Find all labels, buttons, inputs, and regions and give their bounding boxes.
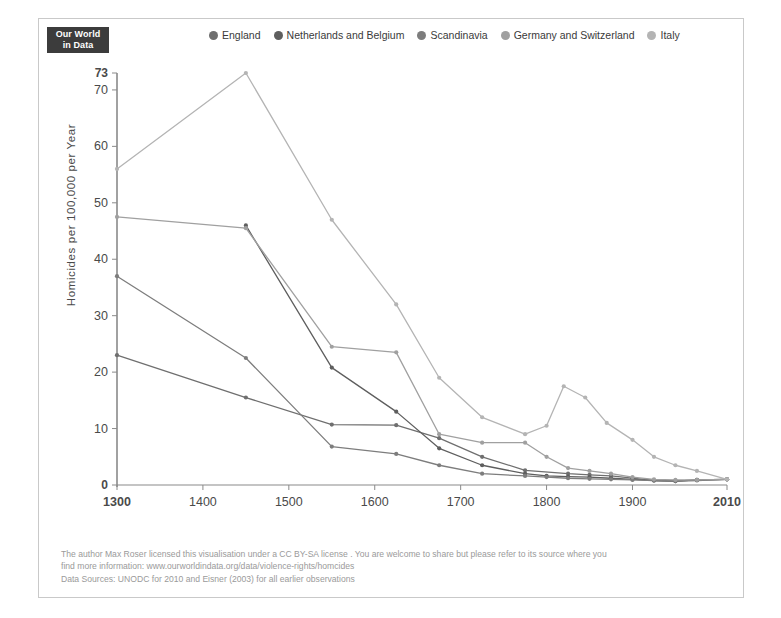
series-netherlands-and-belgium bbox=[244, 223, 729, 483]
legend-marker-icon bbox=[274, 31, 283, 40]
x-tick-label: 1500 bbox=[275, 495, 303, 509]
y-tick-label: 70 bbox=[94, 83, 108, 97]
logo-line-2: in Data bbox=[47, 40, 109, 51]
x-tick-label: 2010 bbox=[713, 495, 741, 509]
data-point-marker[interactable] bbox=[244, 395, 248, 399]
data-point-marker[interactable] bbox=[394, 423, 398, 427]
x-tick-label: 1300 bbox=[103, 495, 131, 509]
data-point-marker[interactable] bbox=[437, 376, 441, 380]
our-world-in-data-logo: Our World in Data bbox=[47, 27, 109, 53]
footer-line-1: The author Max Roser licensed this visua… bbox=[61, 548, 721, 561]
data-point-marker[interactable] bbox=[330, 445, 334, 449]
data-point-marker[interactable] bbox=[630, 475, 634, 479]
data-point-marker[interactable] bbox=[115, 274, 119, 278]
x-tick-label: 1400 bbox=[189, 495, 217, 509]
x-tick-label: 1900 bbox=[619, 495, 647, 509]
data-point-marker[interactable] bbox=[330, 345, 334, 349]
series-england bbox=[115, 353, 729, 483]
series-line bbox=[117, 73, 727, 479]
data-point-marker[interactable] bbox=[587, 477, 591, 481]
legend-item[interactable]: Netherlands and Belgium bbox=[274, 29, 405, 41]
data-point-marker[interactable] bbox=[480, 463, 484, 467]
chart-svg: 0102030405060707313001400150016001700180… bbox=[39, 59, 744, 529]
x-tick-label: 1600 bbox=[361, 495, 389, 509]
data-point-marker[interactable] bbox=[609, 472, 613, 476]
y-tick-label: 50 bbox=[94, 196, 108, 210]
data-point-marker[interactable] bbox=[630, 438, 634, 442]
data-point-marker[interactable] bbox=[244, 226, 248, 230]
plot-area: Homicides per 100,000 per Year 010203040… bbox=[39, 59, 744, 529]
legend-marker-icon bbox=[209, 31, 218, 40]
y-tick-label: 0 bbox=[101, 478, 108, 492]
data-point-marker[interactable] bbox=[652, 477, 656, 481]
data-point-marker[interactable] bbox=[566, 476, 570, 480]
y-tick-label: 30 bbox=[94, 309, 108, 323]
legend-marker-icon bbox=[501, 31, 510, 40]
data-point-marker[interactable] bbox=[115, 167, 119, 171]
legend-label: Germany and Switzerland bbox=[514, 29, 635, 41]
data-point-marker[interactable] bbox=[523, 474, 527, 478]
data-point-marker[interactable] bbox=[480, 455, 484, 459]
data-point-marker[interactable] bbox=[244, 356, 248, 360]
data-point-marker[interactable] bbox=[523, 441, 527, 445]
legend-label: England bbox=[222, 29, 261, 41]
footer-line-3: Data Sources: UNODC for 2010 and Eisner … bbox=[61, 573, 721, 586]
data-point-marker[interactable] bbox=[673, 463, 677, 467]
legend-label: Italy bbox=[660, 29, 679, 41]
x-tick-label: 1800 bbox=[533, 495, 561, 509]
data-point-marker[interactable] bbox=[652, 455, 656, 459]
data-point-marker[interactable] bbox=[566, 466, 570, 470]
data-point-marker[interactable] bbox=[437, 463, 441, 467]
data-point-marker[interactable] bbox=[544, 424, 548, 428]
data-point-marker[interactable] bbox=[725, 477, 729, 481]
data-point-marker[interactable] bbox=[330, 218, 334, 222]
data-point-marker[interactable] bbox=[583, 395, 587, 399]
data-point-marker[interactable] bbox=[437, 432, 441, 436]
y-axis-label: Homicides per 100,000 per Year bbox=[65, 85, 77, 345]
legend-item[interactable]: Germany and Switzerland bbox=[501, 29, 635, 41]
data-point-marker[interactable] bbox=[330, 423, 334, 427]
data-point-marker[interactable] bbox=[609, 477, 613, 481]
data-point-marker[interactable] bbox=[562, 384, 566, 388]
chart-figure: Our World in Data EnglandNetherlands and… bbox=[38, 18, 744, 598]
logo-line-1: Our World bbox=[47, 29, 109, 40]
y-tick-label: 20 bbox=[94, 365, 108, 379]
chart-legend: EnglandNetherlands and BelgiumScandinavi… bbox=[209, 29, 680, 41]
data-point-marker[interactable] bbox=[437, 436, 441, 440]
footer-line-2: find more information: www.ourworldindat… bbox=[61, 560, 721, 573]
data-point-marker[interactable] bbox=[330, 366, 334, 370]
legend-item[interactable]: Scandinavia bbox=[417, 29, 487, 41]
y-tick-label: 73 bbox=[95, 66, 109, 80]
data-point-marker[interactable] bbox=[394, 302, 398, 306]
data-point-marker[interactable] bbox=[544, 475, 548, 479]
data-point-marker[interactable] bbox=[673, 478, 677, 482]
data-point-marker[interactable] bbox=[480, 415, 484, 419]
legend-marker-icon bbox=[417, 31, 426, 40]
series-line bbox=[117, 355, 727, 481]
data-point-marker[interactable] bbox=[437, 446, 441, 450]
series-italy bbox=[115, 71, 729, 482]
legend-item[interactable]: England bbox=[209, 29, 261, 41]
y-tick-label: 40 bbox=[94, 252, 108, 266]
data-point-marker[interactable] bbox=[244, 71, 248, 75]
data-point-marker[interactable] bbox=[394, 452, 398, 456]
data-point-marker[interactable] bbox=[695, 478, 699, 482]
legend-label: Netherlands and Belgium bbox=[287, 29, 405, 41]
y-tick-label: 10 bbox=[94, 422, 108, 436]
y-tick-label: 60 bbox=[94, 139, 108, 153]
data-point-marker[interactable] bbox=[394, 410, 398, 414]
data-point-marker[interactable] bbox=[544, 455, 548, 459]
data-point-marker[interactable] bbox=[480, 472, 484, 476]
series-scandinavia bbox=[115, 274, 729, 483]
data-point-marker[interactable] bbox=[695, 469, 699, 473]
data-point-marker[interactable] bbox=[523, 432, 527, 436]
data-point-marker[interactable] bbox=[605, 421, 609, 425]
data-point-marker[interactable] bbox=[394, 350, 398, 354]
data-point-marker[interactable] bbox=[115, 215, 119, 219]
data-point-marker[interactable] bbox=[115, 353, 119, 357]
legend-item[interactable]: Italy bbox=[647, 29, 679, 41]
data-point-marker[interactable] bbox=[480, 441, 484, 445]
data-point-marker[interactable] bbox=[587, 469, 591, 473]
series-line bbox=[117, 276, 727, 481]
chart-footer: The author Max Roser licensed this visua… bbox=[61, 548, 721, 586]
